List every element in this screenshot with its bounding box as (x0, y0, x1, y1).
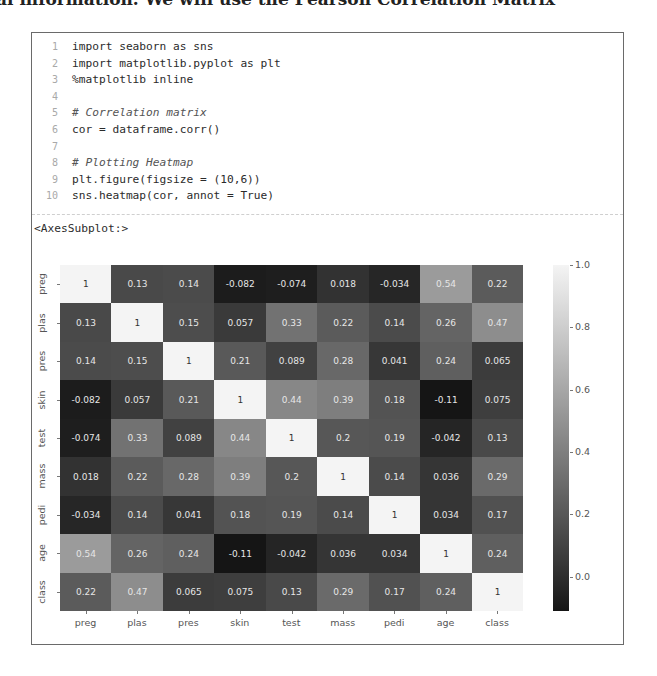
heatmap-cell: -0.042 (420, 419, 472, 458)
heatmap-cell: 0.22 (60, 573, 112, 612)
x-axis-label: age (420, 617, 471, 628)
x-tick (343, 611, 344, 614)
code-text: # Plotting Heatmap (72, 155, 193, 171)
line-number: 6 (32, 122, 58, 138)
heatmap-cell: 0.47 (111, 573, 163, 612)
heatmap-cell: 0.065 (472, 342, 524, 381)
y-axis-label: pedi (36, 495, 48, 535)
line-number: 3 (32, 72, 58, 88)
heatmap-cell: 0.29 (472, 457, 524, 496)
heatmap-cell: 0.17 (369, 573, 421, 612)
correlation-heatmap: 10.130.14-0.082-0.0740.018-0.0340.540.22… (60, 265, 523, 611)
heatmap-cell: -0.074 (266, 265, 318, 304)
line-number: 2 (32, 56, 58, 72)
colorbar-tick-label: 0.8 (575, 321, 590, 332)
y-axis-label: preg (36, 264, 48, 304)
heatmap-cell: 0.14 (163, 265, 215, 304)
x-axis-label: skin (214, 617, 265, 628)
colorbar-tick (570, 390, 573, 391)
heatmap-cell: 0.24 (163, 534, 215, 573)
heatmap-cell: 0.075 (472, 380, 524, 419)
y-axis-label: class (36, 572, 48, 612)
heatmap-cell: 0.18 (214, 496, 266, 535)
x-axis-label: class (472, 617, 523, 628)
heatmap-cell: 0.089 (163, 419, 215, 458)
y-axis-label: skin (36, 380, 48, 420)
heatmap-cell: 0.26 (420, 303, 472, 342)
heatmap-cell: 0.26 (111, 534, 163, 573)
colorbar-tick (570, 577, 573, 578)
heatmap-cell: 0.14 (317, 496, 369, 535)
heatmap-cell: 0.28 (317, 342, 369, 381)
heatmap-cell: -0.074 (60, 419, 112, 458)
heatmap-cell: -0.034 (60, 496, 112, 535)
line-number: 9 (32, 172, 58, 188)
heatmap-cell: 0.28 (163, 457, 215, 496)
y-tick (57, 284, 60, 285)
colorbar-tick-label: 0.6 (575, 384, 590, 395)
colorbar-tick (570, 265, 573, 266)
heatmap-cell: -0.082 (60, 380, 112, 419)
heatmap-cell: 0.13 (111, 265, 163, 304)
line-number: 8 (32, 155, 58, 171)
colorbar-tick (570, 327, 573, 328)
y-axis-label: plas (36, 303, 48, 343)
x-tick (292, 611, 293, 614)
heatmap-cell: 0.18 (369, 380, 421, 419)
code-text: cor = dataframe.corr() (72, 122, 220, 138)
heatmap-cell: 0.24 (420, 342, 472, 381)
heatmap-cell: 0.018 (60, 457, 112, 496)
heatmap-cell: 0.44 (266, 380, 318, 419)
line-number: 5 (32, 105, 58, 121)
heatmap-cell: 0.47 (472, 303, 524, 342)
code-output-divider (32, 214, 623, 215)
heatmap-cell: 0.034 (420, 496, 472, 535)
y-tick (57, 553, 60, 554)
heatmap-cell: 0.14 (369, 303, 421, 342)
heatmap-cell: 1 (60, 265, 112, 304)
x-tick (137, 611, 138, 614)
line-number: 4 (32, 89, 58, 105)
line-number: 10 (32, 188, 58, 204)
y-tick (57, 361, 60, 362)
x-tick (394, 611, 395, 614)
heatmap-cell: 0.065 (163, 573, 215, 612)
heatmap-cell: 0.39 (317, 380, 369, 419)
x-axis-label: plas (111, 617, 162, 628)
y-tick (57, 323, 60, 324)
heatmap-cell: 0.22 (111, 457, 163, 496)
y-axis-label: pres (36, 341, 48, 381)
heatmap-cell: 0.057 (111, 380, 163, 419)
y-tick (57, 476, 60, 477)
heatmap-cell: 0.44 (214, 419, 266, 458)
code-text: import seaborn as sns (72, 39, 213, 55)
heatmap-cell: 0.21 (163, 380, 215, 419)
y-tick (57, 592, 60, 593)
heatmap-cell: -0.11 (214, 534, 266, 573)
x-tick (240, 611, 241, 614)
heatmap-cell: 0.33 (266, 303, 318, 342)
heatmap-cell: 0.036 (420, 457, 472, 496)
code-editor[interactable]: 1import seaborn as sns2import matplotlib… (32, 33, 623, 214)
code-text: import matplotlib.pyplot as plt (72, 56, 281, 72)
x-tick (446, 611, 447, 614)
colorbar-tick-label: 0.0 (575, 571, 590, 582)
y-axis-label: age (36, 533, 48, 573)
heatmap-cell: 0.2 (317, 419, 369, 458)
heatmap-cell: 0.089 (266, 342, 318, 381)
heatmap-cell: 0.15 (163, 303, 215, 342)
heatmap-cell: 0.24 (472, 534, 524, 573)
y-tick (57, 400, 60, 401)
heatmap-cell: 0.13 (266, 573, 318, 612)
heatmap-cell: 0.17 (472, 496, 524, 535)
heatmap-cell: 0.13 (60, 303, 112, 342)
x-axis-label: pedi (369, 617, 420, 628)
x-axis-label: test (266, 617, 317, 628)
heatmap-cell: -0.11 (420, 380, 472, 419)
heatmap-cell: 0.14 (111, 496, 163, 535)
line-number: 7 (32, 139, 58, 155)
colorbar-tick-label: 0.4 (575, 446, 590, 457)
heatmap-cell: 0.057 (214, 303, 266, 342)
x-axis-label: pres (163, 617, 214, 628)
heatmap-cell: 0.19 (266, 496, 318, 535)
